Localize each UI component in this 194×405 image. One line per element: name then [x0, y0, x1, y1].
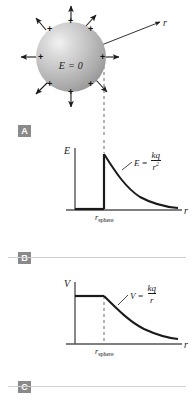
e-equation-leader-line [122, 162, 132, 170]
panel-label-c: C [18, 381, 31, 393]
v-equation-fraction: kq r [146, 284, 159, 306]
e-equation-lhs: E [134, 158, 140, 168]
v-graph-x-axis-label: r [184, 339, 188, 350]
v-tick-subscript: sphere [98, 351, 114, 357]
physics-figure-conducting-sphere: + + + + + + + + E = 0 r A [0, 0, 194, 405]
e-equation-fraction: kq r2 [150, 151, 163, 173]
panel-label-a: A [18, 125, 31, 137]
e-equation-numerator: kq [150, 151, 163, 160]
potential-equation: V = kq r [130, 285, 158, 307]
surface-charge-plus: + [68, 17, 73, 26]
v-equation-relation: = [138, 291, 144, 301]
v-equation-leader-line [118, 295, 128, 305]
inside-field-label: E = 0 [36, 60, 106, 71]
e-graph-x-axis-label: r [184, 205, 188, 216]
v-graph-x-tick-rsphere: rsphere [95, 347, 114, 356]
panel-label-b: B [18, 252, 31, 264]
surface-charge-plus: + [47, 80, 52, 89]
surface-charge-plus: + [88, 25, 93, 34]
panel-a-sphere-diagram: + + + + + + + + E = 0 r [0, 0, 194, 135]
radius-vector-label: r [163, 17, 167, 28]
e-field-equation: E = kq r2 [134, 152, 162, 174]
v-equation-numerator: kq [146, 284, 159, 293]
panel-b-e-field-graph: E r rsphere E = kq r2 [0, 140, 194, 235]
e-denominator-exponent: 2 [156, 161, 159, 167]
e-graph-x-tick-rsphere: rsphere [95, 213, 114, 222]
e-graph-y-axis-label: E [64, 145, 70, 156]
e-tick-subscript: sphere [98, 217, 114, 223]
panel-c-potential-graph: V r rsphere V = kq r [0, 272, 194, 367]
v-equation-lhs: V [130, 291, 136, 301]
v-denominator-base: r [150, 295, 154, 305]
surface-charge-plus: + [88, 80, 93, 89]
panel-c-divider-rule [8, 386, 186, 387]
v-equation-denominator: r [148, 293, 156, 305]
e-equation-relation: = [142, 158, 148, 168]
e-equation-denominator: r2 [151, 160, 162, 172]
surface-charge-plus: + [68, 88, 73, 97]
v-graph-y-axis-label: V [64, 278, 70, 289]
panel-b-divider-rule [8, 257, 186, 258]
surface-charge-plus: + [47, 25, 52, 34]
